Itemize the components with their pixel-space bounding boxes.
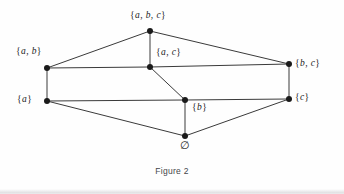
hasse-edge-a-b	[47, 100, 185, 101]
hasse-node-ac[interactable]	[147, 64, 153, 70]
hasse-node-b[interactable]	[182, 97, 188, 103]
hasse-node-ab[interactable]	[44, 65, 50, 71]
hasse-node-label-c: {c}	[295, 92, 310, 103]
hasse-node-label-ab: {a, b}	[16, 46, 42, 57]
hasse-edge-ac-bc	[150, 64, 289, 67]
hasse-diagram-canvas	[0, 0, 344, 194]
figure-caption: Figure 2	[0, 166, 344, 176]
hasse-node-label-empty: ∅	[180, 140, 190, 151]
hasse-node-label-a: {a}	[17, 94, 32, 105]
figure-container: {a, b, c}{a, b}{a, c}{b, c}{a}{b}{c}∅ Fi…	[0, 0, 344, 194]
hasse-node-abc[interactable]	[147, 28, 153, 34]
hasse-node-a[interactable]	[44, 98, 50, 104]
hasse-node-c[interactable]	[286, 96, 292, 102]
hasse-edge-ab-abc	[47, 31, 150, 68]
hasse-node-bc[interactable]	[286, 61, 292, 67]
hasse-node-label-ac: {a, c}	[156, 47, 181, 58]
hasse-edge-b-c	[185, 99, 289, 100]
hasse-node-label-bc: {b, c}	[295, 58, 320, 69]
hasse-edge-ab-ac	[47, 67, 150, 68]
hasse-node-label-abc: {a, b, c}	[118, 10, 178, 21]
hasse-edge-b-ac	[150, 67, 185, 100]
hasse-edge-a-empty	[47, 101, 185, 136]
hasse-node-label-b: {b}	[192, 102, 207, 113]
